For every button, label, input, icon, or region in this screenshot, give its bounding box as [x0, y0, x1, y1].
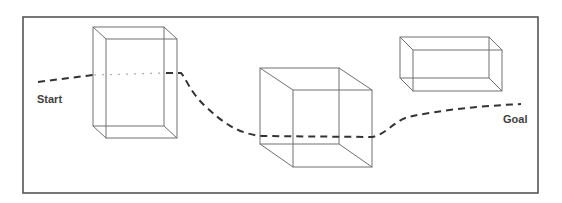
path-segment-main: [166, 73, 521, 137]
goal-label: Goal: [503, 113, 527, 125]
planned-path: [38, 73, 521, 137]
path-segment-hidden: [94, 73, 164, 75]
diagram-frame: [23, 17, 538, 193]
obstacle-cube: [260, 68, 372, 167]
diagram-canvas: Start Goal: [0, 0, 562, 203]
path-segment-start: [38, 75, 93, 82]
obstacle-flat-box: [400, 37, 502, 91]
obstacle-tall-box: [93, 27, 177, 138]
start-label: Start: [37, 93, 62, 105]
